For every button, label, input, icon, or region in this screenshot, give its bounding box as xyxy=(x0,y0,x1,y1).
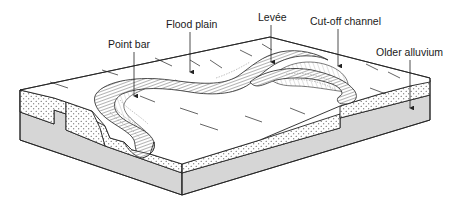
svg-text:Flood plain: Flood plain xyxy=(166,18,218,30)
floodplain-block-diagram: Point bar Flood plain Levée Cut-off chan… xyxy=(0,0,454,209)
svg-text:Older alluvium: Older alluvium xyxy=(376,46,443,58)
svg-text:Cut-off channel: Cut-off channel xyxy=(310,15,381,27)
svg-text:Point bar: Point bar xyxy=(108,38,151,50)
svg-text:Levée: Levée xyxy=(258,11,287,23)
